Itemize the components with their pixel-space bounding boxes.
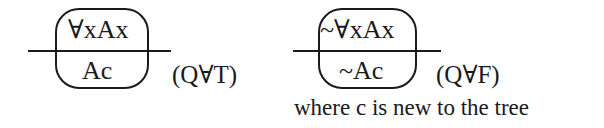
rule-label: (Q∀F) <box>436 62 500 87</box>
rule-condition-note: where c is new to the tree <box>294 96 529 119</box>
conclusion-formula: ~Ac <box>339 58 383 84</box>
rule-label: (Q∀T) <box>172 62 237 87</box>
premise-formula: ∀xAx <box>68 17 128 43</box>
inference-line <box>293 50 441 52</box>
premise-formula: ~∀xAx <box>320 17 395 43</box>
inference-line <box>28 50 171 52</box>
conclusion-formula: Ac <box>82 58 112 84</box>
